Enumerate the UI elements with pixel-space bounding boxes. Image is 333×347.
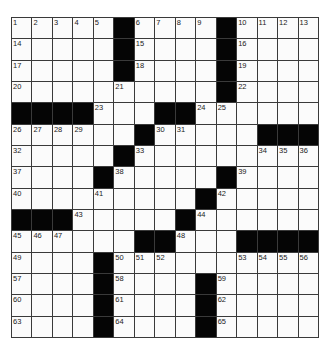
grid-cell[interactable]	[94, 231, 113, 251]
grid-cell[interactable]: 33	[135, 146, 154, 166]
grid-cell[interactable]	[94, 125, 113, 145]
grid-cell[interactable]	[217, 125, 236, 145]
grid-cell[interactable]: 12	[278, 18, 297, 38]
grid-cell[interactable]	[53, 82, 72, 102]
grid-cell[interactable]	[258, 274, 277, 294]
grid-cell[interactable]: 26	[12, 125, 31, 145]
grid-cell[interactable]	[73, 146, 92, 166]
grid-cell[interactable]	[114, 231, 133, 251]
grid-cell[interactable]: 56	[299, 253, 318, 273]
grid-cell[interactable]	[73, 274, 92, 294]
grid-cell[interactable]: 14	[12, 39, 31, 59]
grid-cell[interactable]	[135, 82, 154, 102]
grid-cell[interactable]	[32, 189, 51, 209]
grid-cell[interactable]	[94, 61, 113, 81]
grid-cell[interactable]	[73, 253, 92, 273]
grid-cell[interactable]: 25	[217, 103, 236, 123]
grid-cell[interactable]	[196, 146, 215, 166]
grid-cell[interactable]: 40	[12, 189, 31, 209]
grid-cell[interactable]: 57	[12, 274, 31, 294]
grid-cell[interactable]: 2	[32, 18, 51, 38]
grid-cell[interactable]	[32, 82, 51, 102]
grid-cell[interactable]: 63	[12, 317, 31, 337]
grid-cell[interactable]	[155, 295, 174, 315]
grid-cell[interactable]	[114, 103, 133, 123]
grid-cell[interactable]: 48	[176, 231, 195, 251]
grid-cell[interactable]	[258, 39, 277, 59]
grid-cell[interactable]	[135, 103, 154, 123]
grid-cell[interactable]	[299, 61, 318, 81]
grid-cell[interactable]: 38	[114, 167, 133, 187]
grid-cell[interactable]	[299, 39, 318, 59]
grid-cell[interactable]	[53, 295, 72, 315]
grid-cell[interactable]: 55	[278, 253, 297, 273]
grid-cell[interactable]: 24	[196, 103, 215, 123]
grid-cell[interactable]	[94, 39, 113, 59]
grid-cell[interactable]	[196, 167, 215, 187]
grid-cell[interactable]	[278, 167, 297, 187]
grid-cell[interactable]	[299, 274, 318, 294]
grid-cell[interactable]	[32, 61, 51, 81]
grid-cell[interactable]: 6	[135, 18, 154, 38]
grid-cell[interactable]	[299, 210, 318, 230]
grid-cell[interactable]	[94, 82, 113, 102]
grid-cell[interactable]: 1	[12, 18, 31, 38]
grid-cell[interactable]	[237, 146, 256, 166]
grid-cell[interactable]: 7	[155, 18, 174, 38]
grid-cell[interactable]	[94, 146, 113, 166]
grid-cell[interactable]	[155, 167, 174, 187]
grid-cell[interactable]	[278, 295, 297, 315]
grid-cell[interactable]	[73, 61, 92, 81]
grid-cell[interactable]	[258, 103, 277, 123]
grid-cell[interactable]: 45	[12, 231, 31, 251]
grid-cell[interactable]: 29	[73, 125, 92, 145]
grid-cell[interactable]	[258, 210, 277, 230]
grid-cell[interactable]	[53, 39, 72, 59]
grid-cell[interactable]	[237, 210, 256, 230]
grid-cell[interactable]: 20	[12, 82, 31, 102]
grid-cell[interactable]: 9	[196, 18, 215, 38]
grid-cell[interactable]	[114, 189, 133, 209]
grid-cell[interactable]	[278, 189, 297, 209]
grid-cell[interactable]	[176, 189, 195, 209]
grid-cell[interactable]: 54	[258, 253, 277, 273]
grid-cell[interactable]: 15	[135, 39, 154, 59]
grid-cell[interactable]	[53, 274, 72, 294]
grid-cell[interactable]: 4	[73, 18, 92, 38]
grid-cell[interactable]: 36	[299, 146, 318, 166]
grid-cell[interactable]	[135, 274, 154, 294]
grid-cell[interactable]	[176, 317, 195, 337]
grid-cell[interactable]	[155, 317, 174, 337]
grid-cell[interactable]: 44	[196, 210, 215, 230]
grid-cell[interactable]	[73, 189, 92, 209]
grid-cell[interactable]: 46	[32, 231, 51, 251]
grid-cell[interactable]: 23	[94, 103, 113, 123]
grid-cell[interactable]	[237, 103, 256, 123]
grid-cell[interactable]	[32, 274, 51, 294]
grid-cell[interactable]	[32, 253, 51, 273]
grid-cell[interactable]	[196, 39, 215, 59]
grid-cell[interactable]: 8	[176, 18, 195, 38]
grid-cell[interactable]	[258, 61, 277, 81]
grid-cell[interactable]	[155, 61, 174, 81]
grid-cell[interactable]	[258, 82, 277, 102]
grid-cell[interactable]	[135, 189, 154, 209]
grid-cell[interactable]: 34	[258, 146, 277, 166]
grid-cell[interactable]	[155, 82, 174, 102]
grid-cell[interactable]	[237, 189, 256, 209]
grid-cell[interactable]	[114, 210, 133, 230]
grid-cell[interactable]	[258, 189, 277, 209]
grid-cell[interactable]	[73, 82, 92, 102]
grid-cell[interactable]	[237, 125, 256, 145]
grid-cell[interactable]: 59	[217, 274, 236, 294]
grid-cell[interactable]	[299, 82, 318, 102]
grid-cell[interactable]	[73, 295, 92, 315]
grid-cell[interactable]	[155, 189, 174, 209]
grid-cell[interactable]	[135, 210, 154, 230]
grid-cell[interactable]: 64	[114, 317, 133, 337]
grid-cell[interactable]: 39	[237, 167, 256, 187]
grid-cell[interactable]	[73, 39, 92, 59]
grid-cell[interactable]	[53, 253, 72, 273]
grid-cell[interactable]	[53, 61, 72, 81]
grid-cell[interactable]	[278, 61, 297, 81]
